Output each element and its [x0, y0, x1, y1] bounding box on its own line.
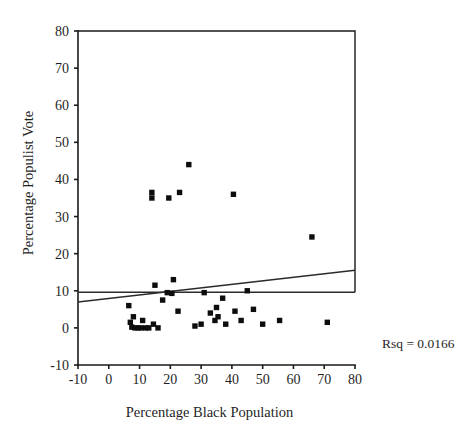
- data-point: [151, 321, 156, 326]
- x-tick-label-40: 40: [225, 372, 239, 387]
- regression-line: [78, 270, 355, 302]
- data-point: [152, 283, 157, 288]
- scatter-plot-figure: -1001020304050607080-1001020304050607080…: [0, 0, 472, 435]
- data-point: [251, 307, 256, 312]
- data-point: [128, 320, 133, 325]
- data-point: [177, 190, 182, 195]
- y-tick-label-50: 50: [55, 135, 69, 150]
- data-point: [238, 318, 243, 323]
- data-point: [198, 321, 203, 326]
- data-point: [171, 277, 176, 282]
- x-tick-label-60: 60: [286, 372, 300, 387]
- data-point: [131, 314, 136, 319]
- data-point: [220, 296, 225, 301]
- data-point: [277, 318, 282, 323]
- x-tick-label-70: 70: [317, 372, 331, 387]
- data-point: [166, 195, 171, 200]
- x-tick-label-30: 30: [194, 372, 208, 387]
- x-tick-label-50: 50: [256, 372, 270, 387]
- data-point: [214, 305, 219, 310]
- data-point: [146, 325, 151, 330]
- data-point: [260, 321, 265, 326]
- y-tick-label--10: -10: [50, 358, 69, 373]
- data-point: [309, 234, 314, 239]
- plot-canvas: -1001020304050607080-1001020304050607080…: [0, 0, 472, 435]
- data-point: [325, 320, 330, 325]
- x-tick-label-10: 10: [133, 372, 147, 387]
- data-point: [149, 190, 154, 195]
- data-point: [155, 325, 160, 330]
- plot-frame: [78, 31, 355, 292]
- y-tick-label-40: 40: [55, 172, 69, 187]
- y-axis-title: Percentage Populist Vote: [20, 111, 36, 255]
- rsq-annotation: Rsq = 0.0166: [382, 336, 455, 351]
- data-point: [169, 291, 174, 296]
- data-point: [223, 321, 228, 326]
- data-point: [231, 192, 236, 197]
- y-tick-label-60: 60: [55, 98, 69, 113]
- x-tick-label--10: -10: [69, 372, 88, 387]
- x-axis-title: Percentage Black Population: [126, 404, 294, 420]
- x-tick-label-0: 0: [105, 372, 112, 387]
- data-point: [175, 308, 180, 313]
- data-point: [201, 290, 206, 295]
- y-tick-label-0: 0: [62, 321, 69, 336]
- x-tick-label-80: 80: [348, 372, 362, 387]
- data-point: [208, 310, 213, 315]
- data-point: [215, 314, 220, 319]
- data-point: [149, 195, 154, 200]
- y-tick-label-10: 10: [55, 284, 69, 299]
- y-tick-label-20: 20: [55, 247, 69, 262]
- y-tick-label-30: 30: [55, 210, 69, 225]
- data-point: [165, 290, 170, 295]
- data-point: [192, 323, 197, 328]
- data-point: [140, 318, 145, 323]
- data-point: [138, 325, 143, 330]
- data-point: [245, 288, 250, 293]
- y-tick-label-70: 70: [55, 61, 69, 76]
- data-point: [186, 162, 191, 167]
- data-point: [126, 303, 131, 308]
- data-point: [232, 308, 237, 313]
- data-point: [160, 297, 165, 302]
- y-tick-label-80: 80: [55, 24, 69, 39]
- x-tick-label-20: 20: [163, 372, 177, 387]
